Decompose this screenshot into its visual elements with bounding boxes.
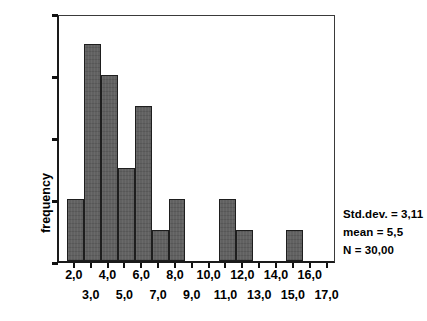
x-tick-label: 13,0 xyxy=(247,288,271,302)
statistics-box: Std.dev. = 3,11 mean = 5,5 N = 30,00 xyxy=(343,205,423,259)
histogram-bar xyxy=(135,106,152,261)
x-tick-label: 10,0 xyxy=(196,268,220,282)
x-tick-mark xyxy=(191,263,193,268)
x-tick-label: 3,0 xyxy=(82,288,99,302)
x-tick-mark xyxy=(292,263,294,268)
x-tick-label: 4,0 xyxy=(99,268,116,282)
y-tick-mark xyxy=(52,14,58,17)
x-tick-label: 6,0 xyxy=(133,268,150,282)
x-tick-label: 5,0 xyxy=(116,288,133,302)
x-tick-label: 9,0 xyxy=(183,288,200,302)
stat-std-dev: Std.dev. = 3,11 xyxy=(343,205,423,223)
histogram-chart: frequency 02468 2,03,04,05,06,07,08,09,0… xyxy=(0,0,427,321)
stat-n: N = 30,00 xyxy=(343,241,423,259)
x-tick-mark xyxy=(157,263,159,268)
x-tick-label: 11,0 xyxy=(214,288,238,302)
plot-area xyxy=(57,15,335,263)
x-tick-mark xyxy=(224,263,226,268)
histogram-bar xyxy=(118,168,135,261)
bars-layer xyxy=(59,16,334,261)
histogram-bar xyxy=(236,230,253,261)
y-axis-title: frequency xyxy=(39,148,53,258)
histogram-bar xyxy=(67,199,84,261)
x-tick-label: 14,0 xyxy=(264,268,288,282)
y-tick-mark xyxy=(52,262,58,265)
x-tick-mark xyxy=(123,263,125,268)
y-tick-mark xyxy=(52,76,58,79)
x-tick-label: 12,0 xyxy=(230,268,254,282)
histogram-bar xyxy=(84,44,101,261)
histogram-bar xyxy=(101,75,118,261)
y-tick-mark xyxy=(52,138,58,141)
x-tick-label: 2,0 xyxy=(65,268,82,282)
x-tick-mark xyxy=(90,263,92,268)
x-tick-label: 17,0 xyxy=(314,288,338,302)
stat-mean: mean = 5,5 xyxy=(343,223,423,241)
x-tick-label: 8,0 xyxy=(166,268,183,282)
histogram-bar xyxy=(286,230,303,261)
x-tick-mark xyxy=(326,263,328,268)
histogram-bar xyxy=(152,230,169,261)
x-tick-label: 7,0 xyxy=(149,288,166,302)
x-tick-label: 16,0 xyxy=(298,268,322,282)
x-tick-mark xyxy=(258,263,260,268)
histogram-bar xyxy=(169,199,186,261)
x-tick-label: 15,0 xyxy=(281,288,305,302)
histogram-bar xyxy=(219,199,236,261)
y-tick-mark xyxy=(52,200,58,203)
